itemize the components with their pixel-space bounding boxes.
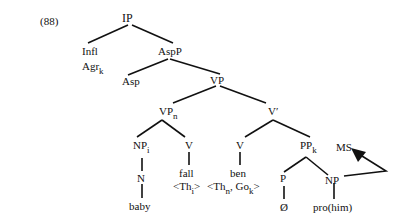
npi-label: NP bbox=[133, 139, 147, 151]
node-vbar: V′ bbox=[268, 105, 278, 117]
node-ppk: PPk bbox=[300, 139, 317, 151]
node-agr: Agrk bbox=[82, 60, 104, 72]
node-ms: MS bbox=[336, 141, 352, 153]
node-p: P bbox=[280, 172, 286, 184]
theta-ben-open: <Th bbox=[207, 180, 225, 192]
theta-grid-ben: <Thn, Gok> bbox=[207, 180, 260, 192]
word-fall: fall bbox=[179, 167, 194, 179]
node-np-pro: NP bbox=[325, 174, 339, 186]
node-vp: VP bbox=[210, 74, 224, 86]
theta-ben-close: > bbox=[253, 180, 259, 192]
node-v-ben: V bbox=[236, 139, 244, 151]
node-ip: IP bbox=[122, 12, 133, 24]
ppk-subscript: k bbox=[312, 145, 317, 155]
node-infl: Infl bbox=[82, 45, 98, 57]
node-aspp: AspP bbox=[158, 45, 182, 57]
word-pro-him: pro(him) bbox=[313, 201, 352, 213]
theta-fall-open: <Th bbox=[173, 180, 191, 192]
word-ben: ben bbox=[230, 167, 246, 179]
theta-fall-close: > bbox=[194, 180, 200, 192]
node-vpn: VPn bbox=[159, 105, 178, 117]
word-baby: baby bbox=[129, 200, 150, 212]
node-asp: Asp bbox=[122, 75, 140, 87]
example-number: (88) bbox=[40, 15, 58, 27]
agr-label: Agr bbox=[82, 60, 99, 72]
arrowhead-icon bbox=[351, 148, 366, 162]
theta-ben-mid: , Go bbox=[230, 180, 249, 192]
node-npi: NPi bbox=[133, 139, 150, 151]
node-v-fall: V bbox=[185, 139, 193, 151]
vpn-subscript: n bbox=[173, 111, 178, 121]
node-n: N bbox=[137, 172, 145, 184]
ppk-label: PP bbox=[300, 139, 312, 151]
agr-subscript: k bbox=[99, 66, 104, 76]
vpn-label: VP bbox=[159, 105, 173, 117]
theta-grid-fall: <Thi> bbox=[173, 180, 200, 192]
npi-subscript: i bbox=[147, 145, 150, 155]
null-element: Ø bbox=[280, 201, 288, 213]
